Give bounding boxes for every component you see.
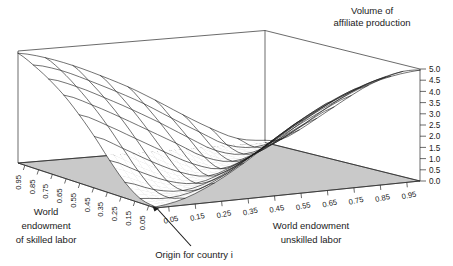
axis-tick-label: 0.25: [110, 207, 119, 222]
axis-tick-label: 0.55: [69, 193, 78, 208]
axis-tick-label: 0.65: [55, 189, 64, 204]
axis-tick-label: 0.55: [295, 200, 311, 212]
axis-tick-label: 3.5: [429, 99, 441, 108]
axis-tick-label: 2.5: [429, 121, 441, 130]
axis-tick-label: 0.85: [374, 192, 390, 204]
axis-tick-label: 4.5: [429, 76, 441, 85]
origin-annotation: Origin for country i: [155, 249, 233, 260]
axis-tick-label: 4.0: [429, 88, 441, 97]
axis-tick-label: 0.15: [189, 211, 205, 223]
y-axis-label-line2: endowment: [21, 220, 70, 231]
x-axis-label-line2: unskilled labor: [281, 234, 342, 245]
axis-tick-label: 0.35: [242, 206, 258, 218]
plot-title-line1: Volume of: [351, 5, 394, 16]
axis-tick-label: 0.95: [401, 189, 417, 201]
axis-tick-label: 1.5: [429, 144, 441, 153]
surface-plot-figure: 0.050.150.250.350.450.550.650.750.850.95…: [0, 0, 453, 266]
axis-tick-label: 0.85: [28, 180, 37, 195]
axis-tick-label: 0.95: [14, 175, 23, 190]
axis-tick-label: 3.0: [429, 110, 441, 119]
y-axis-label-line3: of skilled labor: [16, 234, 77, 245]
x-axis-label-line1: World endowment: [273, 220, 350, 231]
axis-tick-label: 0.0: [429, 177, 441, 186]
axis-tick-label: 0.75: [41, 184, 50, 199]
axis-tick-label: 1.0: [429, 155, 441, 164]
axis-tick-label: 0.15: [124, 211, 133, 226]
axis-tick-label: 0.75: [348, 195, 364, 207]
y-axis-label-line1: World: [34, 206, 59, 217]
plot-canvas: 0.050.150.250.350.450.550.650.750.850.95…: [0, 0, 453, 266]
axis-tick-label: 2.0: [429, 132, 441, 141]
axis-tick-label: 0.35: [96, 202, 105, 217]
axis-tick-label: 0.65: [322, 198, 338, 210]
plot-title-line2: affiliate production: [334, 17, 411, 28]
leader-annotation-group: [152, 206, 191, 246]
axis-tick-label: 0.25: [216, 208, 232, 220]
axis-tick-label: 0.5: [429, 166, 441, 175]
axis-tick-label: 0.45: [83, 198, 92, 213]
axis-tick-label: 5.0: [429, 65, 441, 74]
axis-tick-label: 0.05: [138, 216, 147, 231]
axis-tick-label: 0.45: [269, 203, 285, 215]
